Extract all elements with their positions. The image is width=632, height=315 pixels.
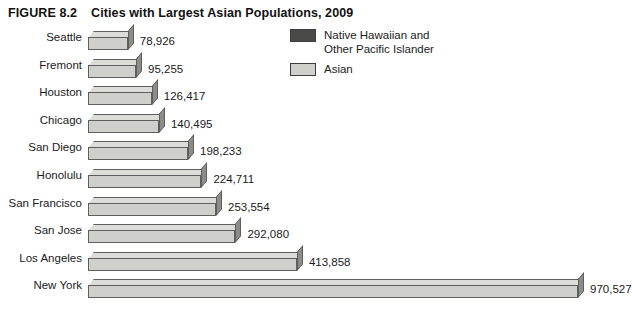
bar-end-cap bbox=[159, 107, 165, 133]
bar-value-label: 413,858 bbox=[309, 253, 351, 272]
bar bbox=[88, 224, 235, 243]
bar-front-face bbox=[88, 175, 201, 188]
bar-row: Honolulu224,711 bbox=[0, 166, 632, 194]
bar-value-label: 95,255 bbox=[148, 60, 183, 79]
legend-label-asian: Asian bbox=[324, 62, 353, 76]
figure-title-bar: FIGURE 8.2 Cities with Largest Asian Pop… bbox=[8, 6, 353, 20]
bar-front-face bbox=[88, 258, 297, 271]
category-label: San Jose bbox=[0, 221, 82, 240]
legend-swatch-native-hawaiian bbox=[290, 29, 316, 42]
bar-end-cap bbox=[128, 24, 134, 50]
bar-row: San Jose292,080 bbox=[0, 221, 632, 249]
bar bbox=[88, 169, 201, 188]
bar-front-face bbox=[88, 92, 152, 105]
bar bbox=[88, 31, 128, 50]
figure-number: FIGURE 8.2 bbox=[8, 6, 77, 20]
category-label: San Francisco bbox=[0, 194, 82, 213]
category-label: Honolulu bbox=[0, 166, 82, 185]
bar-row: San Francisco253,554 bbox=[0, 194, 632, 222]
bar-end-cap bbox=[297, 245, 303, 271]
page-title: Cities with Largest Asian Populations, 2… bbox=[91, 6, 353, 20]
category-label: Seattle bbox=[0, 28, 82, 47]
bar-end-cap bbox=[235, 217, 241, 243]
bar-value-label: 140,495 bbox=[171, 115, 213, 134]
bar-front-face bbox=[88, 37, 128, 50]
bar-end-cap bbox=[152, 79, 158, 105]
bar-end-cap bbox=[201, 162, 207, 188]
bar bbox=[88, 252, 297, 271]
bar-end-cap bbox=[578, 272, 584, 298]
bar bbox=[88, 114, 159, 133]
bar-row: Chicago140,495 bbox=[0, 111, 632, 139]
bar-row: Los Angeles413,858 bbox=[0, 249, 632, 277]
bar-value-label: 224,711 bbox=[213, 170, 254, 189]
chart-legend: Native Hawaiian and Other Pacific Island… bbox=[290, 28, 520, 82]
bar-front-face bbox=[88, 230, 235, 243]
bar-value-label: 253,554 bbox=[228, 198, 270, 217]
bar-end-cap bbox=[188, 134, 194, 160]
bar-end-cap bbox=[136, 52, 142, 78]
bar-front-face bbox=[88, 203, 216, 216]
bar bbox=[88, 279, 578, 298]
bar bbox=[88, 59, 136, 78]
bar bbox=[88, 197, 216, 216]
bar bbox=[88, 86, 152, 105]
legend-item-native-hawaiian: Native Hawaiian and Other Pacific Island… bbox=[290, 28, 520, 56]
bar-value-label: 292,080 bbox=[247, 225, 289, 244]
bar-value-label: 198,233 bbox=[200, 142, 242, 161]
bar-value-label: 970,527 bbox=[590, 280, 632, 299]
category-label: Chicago bbox=[0, 111, 82, 130]
category-label: New York bbox=[0, 276, 82, 295]
legend-label-native-hawaiian: Native Hawaiian and Other Pacific Island… bbox=[324, 28, 434, 56]
bar-front-face bbox=[88, 147, 188, 160]
category-label: Houston bbox=[0, 83, 82, 102]
category-label: San Diego bbox=[0, 138, 82, 157]
bar bbox=[88, 141, 188, 160]
bar-value-label: 126,417 bbox=[164, 87, 206, 106]
bar-front-face bbox=[88, 65, 136, 78]
legend-item-asian: Asian bbox=[290, 62, 520, 76]
legend-swatch-asian bbox=[290, 63, 316, 76]
bar-front-face bbox=[88, 285, 578, 298]
bar-front-face bbox=[88, 120, 159, 133]
bar-row: San Diego198,233 bbox=[0, 138, 632, 166]
bar-value-label: 78,926 bbox=[140, 32, 175, 51]
bar-end-cap bbox=[216, 190, 222, 216]
bar-row: New York970,527 bbox=[0, 276, 632, 304]
category-label: Los Angeles bbox=[0, 249, 82, 268]
category-label: Fremont bbox=[0, 56, 82, 75]
bar-row: Houston126,417 bbox=[0, 83, 632, 111]
